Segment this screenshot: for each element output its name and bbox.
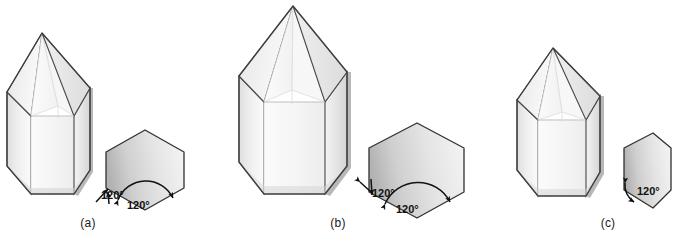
crystal-b-face-front <box>264 102 325 194</box>
panel-caption-b: (b) <box>318 216 358 230</box>
crystal-forms-figure: 120° 120° <box>0 0 677 237</box>
hexagon-b-angle-label-2: 120° <box>396 203 419 215</box>
panel-caption-c: (c) <box>588 216 628 230</box>
crystal-c-face-front <box>538 120 586 196</box>
hexagon-a-angle-label-2: 120° <box>127 199 150 211</box>
hexagon-b-angle-label-1: 120° <box>372 187 395 199</box>
crystal-a-face-front <box>31 116 74 194</box>
hexagon-c-angle-label: 120° <box>637 185 660 197</box>
panel-caption-a: (a) <box>68 216 108 230</box>
